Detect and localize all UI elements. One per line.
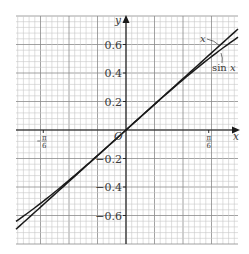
leader-line-x — [207, 39, 220, 46]
series-label-x: x — [200, 33, 206, 44]
y-tick-label: 0.6 — [105, 39, 123, 52]
x-tick-label-den: 6 — [206, 142, 211, 150]
y-tick-label: 0.4 — [105, 67, 123, 80]
origin-label: O — [114, 130, 123, 142]
x-tick-label-num: π — [42, 134, 47, 142]
curves — [16, 29, 238, 229]
chart: 0.60.40.2−0.2−0.4−0.6π6π6 y x O x sin x — [0, 0, 249, 254]
y-tick-label: −0.6 — [95, 210, 122, 223]
sin-arg: x — [230, 62, 236, 73]
sin-text: sin — [212, 62, 230, 73]
y-axis-label: y — [114, 14, 122, 26]
y-tick-label: 0.2 — [105, 96, 123, 109]
x-tick-label-num: π — [206, 134, 211, 142]
x-tick-label-den: 6 — [42, 142, 47, 150]
y-tick-label: −0.4 — [95, 181, 122, 194]
x-axis-label: x — [233, 130, 239, 142]
y-tick-label: −0.2 — [95, 153, 122, 166]
series-label-sinx: sin x — [212, 62, 236, 73]
curve-sinx — [16, 37, 238, 221]
